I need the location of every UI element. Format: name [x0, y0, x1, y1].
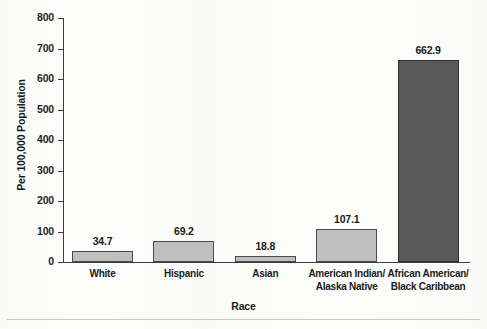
bar-value-label: 107.1: [304, 213, 389, 225]
y-axis-tick-label: 500: [37, 103, 54, 116]
bar-value-label: 34.7: [60, 235, 145, 247]
y-axis-tick-label: 200: [37, 194, 54, 207]
x-axis-category-label: African American/Black Caribbean: [378, 268, 479, 293]
bar-value-label: 662.9: [386, 44, 471, 56]
y-axis-title: Per 100,000 Population: [14, 50, 28, 220]
y-axis-tick-label: 700: [37, 42, 54, 55]
y-axis-tick-mark: [58, 18, 63, 19]
y-axis-tick-label: 0: [48, 255, 54, 268]
bar: [398, 60, 459, 262]
bar: [235, 256, 296, 262]
bar-value-label: 18.8: [223, 240, 308, 252]
y-axis-tick-mark: [58, 262, 63, 263]
x-axis-category-label-line: Black Caribbean: [378, 281, 479, 294]
y-axis-tick-mark: [58, 140, 63, 141]
y-axis-tick-label: 400: [37, 133, 54, 146]
y-axis-tick-label: 800: [37, 11, 54, 24]
bar-value-label: 69.2: [141, 225, 226, 237]
y-axis-tick-mark: [58, 49, 63, 50]
y-axis-tick-mark: [58, 232, 63, 233]
x-axis-line: [63, 262, 470, 263]
bar: [153, 241, 214, 262]
y-axis-tick-label: 300: [37, 164, 54, 177]
x-axis-title: Race: [0, 300, 487, 312]
y-axis-tick-label: 100: [37, 225, 54, 238]
y-axis-tick-mark: [58, 79, 63, 80]
page-rule-artifact: [7, 319, 480, 320]
y-axis-tick-mark: [58, 171, 63, 172]
y-axis-tick-mark: [58, 110, 63, 111]
bar-chart-figure: Per 100,000 Population 80070060050040030…: [0, 0, 487, 329]
x-axis-category-label-line: African American/: [378, 268, 479, 281]
bar: [72, 251, 133, 262]
y-axis-title-text: Per 100,000 Population: [15, 79, 27, 191]
y-axis-tick-label: 600: [37, 72, 54, 85]
bar: [316, 229, 377, 262]
y-axis-tick-mark: [58, 201, 63, 202]
